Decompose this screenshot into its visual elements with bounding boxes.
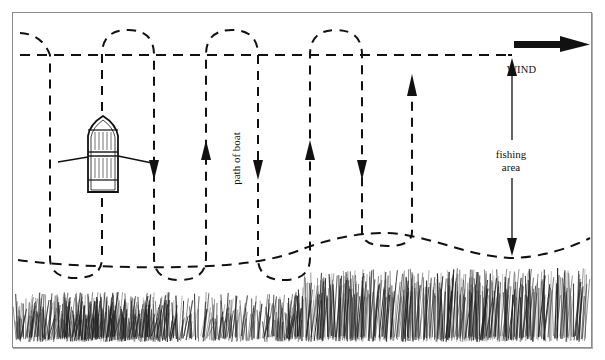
- fishing-area-label-line1: fishing: [479, 148, 543, 161]
- wind-label: WIND: [507, 63, 536, 76]
- shore-grass: [13, 268, 590, 342]
- arrow-up-icon: [407, 74, 417, 96]
- boat-path: [20, 30, 412, 280]
- fishing-diagram: [0, 0, 605, 360]
- arrow-down-icon: [357, 160, 367, 180]
- arrow-up-icon: [201, 140, 211, 160]
- oar-right: [118, 156, 152, 163]
- wind-arrow: [514, 36, 590, 52]
- rowboat: [58, 116, 152, 192]
- fishing-area-label: fishing area: [479, 148, 543, 174]
- arrow-up-icon: [305, 140, 315, 160]
- bottom-boundary-line: [18, 233, 590, 267]
- arrow-down-icon: [253, 160, 263, 180]
- arrow-down-icon: [507, 238, 517, 256]
- path-of-boat-label: path of boat: [230, 119, 243, 199]
- path-direction-arrows: [149, 74, 417, 180]
- fishing-area-label-line2: area: [479, 161, 543, 174]
